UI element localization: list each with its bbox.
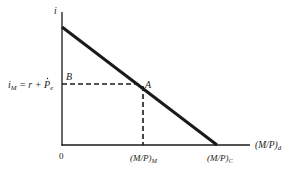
interest-rate-marker-label: iM = r + Pe bbox=[8, 79, 53, 92]
y-axis-label: i bbox=[54, 5, 57, 16]
pe-dot-accent bbox=[47, 78, 48, 79]
x-marker-m-label: (M/P)M bbox=[130, 153, 158, 164]
x-axis-label: (M/P)d bbox=[255, 140, 282, 152]
money-demand-line bbox=[62, 27, 217, 145]
origin-label: 0 bbox=[59, 151, 64, 161]
point-a-label: A bbox=[144, 79, 152, 90]
x-marker-c-label: (M/P)C bbox=[207, 153, 234, 164]
money-demand-diagram: i iM = r + Pe B A 0 (M/P)M (M/P)C (M/P)d bbox=[0, 0, 300, 171]
point-b-label: B bbox=[66, 71, 72, 82]
